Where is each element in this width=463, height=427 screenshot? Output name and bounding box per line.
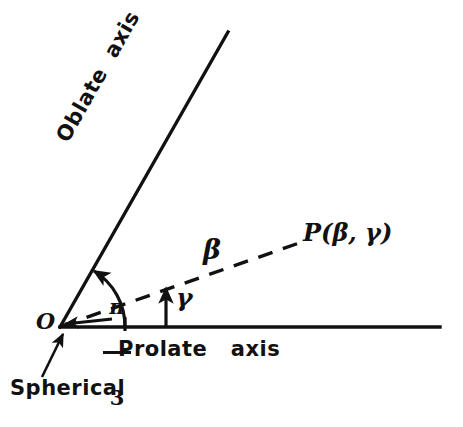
pi-over-3-numerator: π	[103, 296, 131, 318]
beta-label: β	[203, 236, 221, 263]
point-p-label: P(β, γ)	[303, 221, 392, 245]
pi-over-3-angle-label: π 3	[103, 264, 131, 427]
gamma-label: γ	[176, 285, 193, 310]
prolate-axis-label: Prolate axis	[118, 339, 280, 360]
figure-canvas: Oblate axis Prolate axis Spherical O β γ…	[0, 0, 463, 427]
fraction-bar	[103, 351, 131, 354]
spherical-leader-arrow	[42, 334, 63, 377]
diagram-svg	[0, 0, 463, 427]
origin-label: O	[36, 310, 55, 332]
pi-over-3-denominator: 3	[103, 387, 131, 409]
